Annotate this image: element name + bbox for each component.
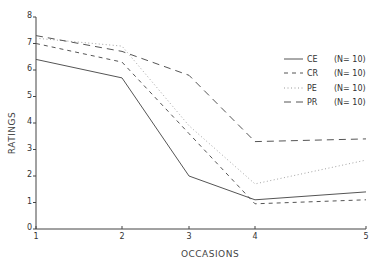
y-tick-label: 7 [27, 38, 32, 47]
legend: CE(N= 10)CR(N= 10)PE(N= 10)PR(N= 10) [284, 55, 366, 107]
x-tick-label: 4 [252, 232, 257, 241]
x-tick-label: 3 [186, 232, 191, 241]
y-tick-label: 3 [27, 144, 32, 153]
legend-n-cr: (N= 10) [334, 69, 366, 78]
y-tick-label: 8 [27, 11, 32, 20]
series-cr-line [36, 44, 366, 204]
y-tick-label: 2 [27, 170, 32, 179]
legend-label-pr: PR [307, 98, 318, 107]
y-tick-label: 6 [27, 64, 32, 73]
series-ce-line [36, 59, 366, 199]
y-tick-label: 5 [27, 91, 32, 100]
legend-n-ce: (N= 10) [334, 55, 366, 64]
x-tick-label: 1 [33, 232, 38, 241]
y-tick-label: 1 [27, 197, 32, 206]
x-tick-label: 2 [119, 232, 124, 241]
x-axis-title: OCCASIONS [181, 249, 239, 259]
legend-n-pr: (N= 10) [334, 98, 366, 107]
y-tick-label: 0 [27, 223, 32, 232]
legend-label-ce: CE [307, 55, 318, 64]
line-chart: 01234567812345 CE(N= 10)CR(N= 10)PE(N= 1… [0, 0, 379, 274]
x-tick-label: 5 [363, 232, 368, 241]
axes: 01234567812345 [27, 11, 369, 241]
y-tick-label: 4 [27, 117, 32, 126]
y-axis-title: RATINGS [7, 112, 17, 154]
legend-label-cr: CR [307, 69, 319, 78]
legend-n-pe: (N= 10) [334, 84, 366, 93]
legend-label-pe: PE [307, 84, 317, 93]
